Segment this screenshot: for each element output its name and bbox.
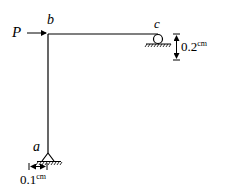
pin-support-icon bbox=[36, 153, 62, 165]
node-label-b: b bbox=[47, 13, 54, 27]
dimension-label-0.1: 0.1cm bbox=[20, 173, 46, 186]
dimension-label-0.2: 0.2cm bbox=[181, 40, 207, 53]
dimension-0.2cm-icon bbox=[173, 34, 180, 60]
dimension-0.1cm-icon bbox=[29, 163, 47, 170]
frame-drawing bbox=[0, 0, 225, 192]
node-label-c: c bbox=[154, 17, 160, 30]
roller-support-icon bbox=[145, 35, 171, 48]
load-label-p: P bbox=[12, 25, 21, 40]
node-label-a: a bbox=[33, 140, 40, 154]
